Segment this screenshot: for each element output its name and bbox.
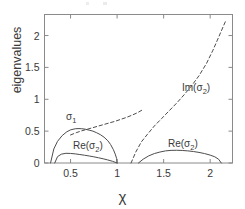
x-tick-label: 1.5 <box>156 167 171 179</box>
annotation-sigma1: σ1 <box>66 111 76 125</box>
x-tick-label: 2 <box>207 167 213 179</box>
curve-2 <box>71 109 144 135</box>
curve-3 <box>55 153 117 163</box>
y-tick-label: 2 <box>14 30 40 42</box>
scan-artifact <box>103 2 107 5</box>
annotation-re-sigma2-left: Re(σ2) <box>73 140 103 154</box>
x-tick-label: 0.5 <box>63 167 78 179</box>
x-axis-label: χ <box>0 188 245 205</box>
figure-container: eigenvalues χ 0.511.52 00.511.52 σ1Re(σ2… <box>0 0 245 209</box>
annotation-im-sigma2: Im(σ2) <box>182 82 210 96</box>
annotation-re-sigma2-right: Re(σ2) <box>168 138 198 152</box>
y-tick-label: 0 <box>14 157 40 169</box>
curve-4 <box>139 150 222 163</box>
y-tick-label: 1.5 <box>14 61 40 73</box>
y-tick-label: 0.5 <box>14 125 40 137</box>
y-tick-label: 1 <box>14 93 40 105</box>
x-tick-label: 1 <box>114 167 120 179</box>
scan-artifact <box>86 2 89 5</box>
